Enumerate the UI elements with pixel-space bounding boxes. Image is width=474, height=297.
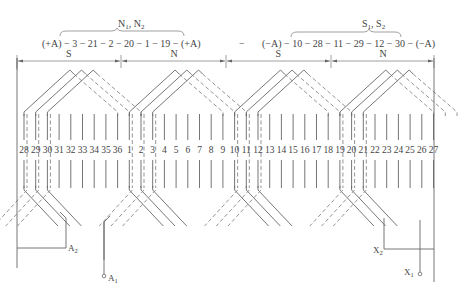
- pole-label: N: [380, 48, 387, 59]
- slot-number: 19: [335, 145, 345, 155]
- slot-row: 2829303132333435361234567891011121314151…: [19, 114, 438, 188]
- slot-number: 34: [89, 145, 99, 155]
- slot-number: 23: [382, 145, 392, 155]
- slot-number: 21: [359, 145, 369, 155]
- slot-number: 22: [370, 145, 380, 155]
- slot-number: 8: [209, 145, 214, 155]
- terminal-a2-label: A2: [68, 243, 78, 254]
- slot-number: 24: [394, 145, 404, 155]
- terminal-a-leads: [17, 58, 110, 278]
- slot-number: 35: [101, 145, 111, 155]
- terminal-x-leads: [384, 58, 434, 282]
- slot-number: 2: [139, 145, 144, 155]
- slot-number: 11: [242, 145, 251, 155]
- slot-number: 9: [221, 145, 226, 155]
- slot-number: 1: [127, 145, 132, 155]
- slot-number: 17: [312, 145, 322, 155]
- slot-number: 7: [197, 145, 202, 155]
- terminal-a1-label: A1: [108, 273, 118, 284]
- slot-number: 12: [253, 145, 263, 155]
- slot-number: 6: [185, 145, 190, 155]
- terminal-x1-label: X1: [404, 267, 414, 278]
- slot-number: 4: [162, 145, 167, 155]
- slot-number: 15: [288, 145, 298, 155]
- brace-n: [60, 28, 184, 36]
- pole-label: N: [171, 48, 178, 59]
- slot-number: 30: [43, 145, 53, 155]
- slot-number: 25: [405, 145, 415, 155]
- winding-diagram-canvas: N1, N2 S1, S2 (+A) − 3 − 21 − 2 − 20 − 1…: [0, 0, 474, 297]
- slot-number: 20: [347, 145, 357, 155]
- slot-number: 29: [31, 145, 41, 155]
- group-label-n: N1, N2: [118, 18, 145, 31]
- slot-number: 33: [78, 145, 88, 155]
- sequence-s: (−A) − 10 − 28 − 11 − 29 − 12 − 30 − (−A…: [262, 38, 435, 50]
- pole-dimension-lines: SNSN: [17, 48, 434, 70]
- terminal-x2-label: X2: [373, 245, 383, 256]
- slot-number: 10: [230, 145, 240, 155]
- slot-number: 14: [277, 145, 287, 155]
- slot-number: 32: [66, 145, 76, 155]
- slot-number: 26: [417, 145, 427, 155]
- slot-number: 13: [265, 145, 275, 155]
- pole-label: S: [276, 48, 282, 59]
- slot-number: 18: [323, 145, 333, 155]
- slot-number: 36: [113, 145, 123, 155]
- winding-diagram: N1, N2 S1, S2 (+A) − 3 − 21 − 2 − 20 − 1…: [0, 0, 474, 297]
- slot-number: 31: [54, 145, 64, 155]
- sequence-sep: −: [239, 38, 245, 49]
- slot-number: 5: [174, 145, 179, 155]
- group-label-s: S1, S2: [362, 18, 386, 31]
- slot-number: 3: [150, 145, 155, 155]
- slot-number: 16: [300, 145, 310, 155]
- pole-label: S: [66, 48, 72, 59]
- slot-number: 28: [19, 145, 29, 155]
